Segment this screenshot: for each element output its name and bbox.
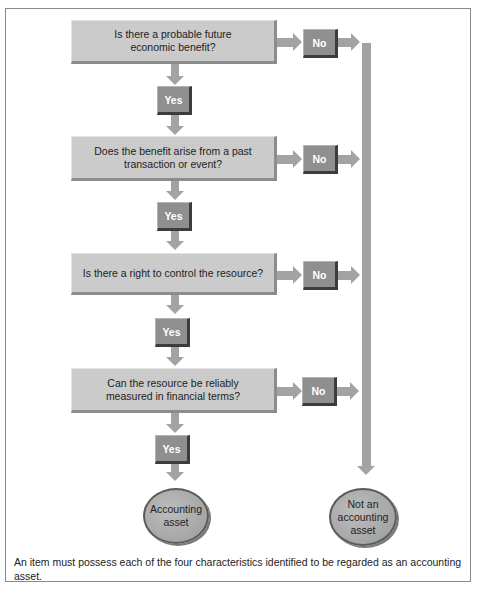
outcome-not-accounting-asset: Not an accounting asset [329, 488, 397, 546]
yes-box-2: Yes [157, 202, 192, 231]
question-box-4: Can the resource be reliably measured in… [71, 368, 277, 413]
no-label-4: No [312, 385, 326, 397]
arrowhead-no-rail [357, 466, 375, 475]
arrowhead-q4-no [293, 382, 302, 400]
no-box-2: No [303, 145, 338, 174]
arrowhead-no3-rail [351, 266, 360, 284]
no-box-4: No [302, 377, 337, 406]
yes-label-4: Yes [162, 443, 180, 455]
question-1-text: Is there a probable future economic bene… [108, 28, 238, 54]
arrowhead-q3-no [293, 266, 302, 284]
arrowhead-no2-rail [351, 150, 360, 168]
question-2-text: Does the benefit arise from a past trans… [81, 145, 266, 171]
no-label-2: No [313, 153, 327, 165]
outcome-not-accounting-asset-text: Not an accounting asset [335, 498, 391, 537]
no-box-3: No [303, 261, 338, 290]
question-box-3: Is there a right to control the resource… [71, 253, 277, 295]
arrowhead-no4-rail [350, 382, 359, 400]
arrowhead-no1-rail [351, 33, 360, 51]
connector-q1-yes [171, 64, 179, 76]
arrowhead-q2-yes [166, 191, 184, 200]
arrowhead-yes3-q4 [166, 357, 184, 366]
question-3-text: Is there a right to control the resource… [83, 267, 263, 280]
yes-box-4: Yes [155, 435, 190, 464]
arrowhead-q4-yes [166, 424, 184, 433]
arrowhead-q3-yes [166, 305, 184, 314]
question-box-1: Is there a probable future economic bene… [71, 20, 277, 64]
question-box-2: Does the benefit arise from a past trans… [71, 136, 277, 181]
yes-label-1: Yes [164, 94, 182, 106]
yes-box-1: Yes [157, 86, 192, 115]
figure-frame [5, 8, 471, 582]
arrowhead-q2-no [293, 150, 302, 168]
yes-label-3: Yes [162, 326, 180, 338]
arrowhead-yes1-q2 [166, 126, 184, 135]
arrowhead-yes2-q3 [166, 241, 184, 250]
outcome-accounting-asset-text: Accounting asset [148, 503, 204, 529]
outcome-accounting-asset: Accounting asset [143, 488, 209, 544]
no-rail [362, 43, 371, 468]
arrowhead-q1-yes [166, 76, 184, 85]
yes-box-3: Yes [155, 318, 190, 347]
figure-caption: An item must possess each of the four ch… [14, 555, 464, 583]
arrowhead-yes4-outcome [166, 472, 184, 481]
arrowhead-q1-no [293, 33, 302, 51]
no-label-3: No [313, 269, 327, 281]
question-4-text: Can the resource be reliably measured in… [98, 377, 248, 403]
no-box-1: No [303, 29, 338, 58]
yes-label-2: Yes [164, 210, 182, 222]
no-label-1: No [313, 37, 327, 49]
